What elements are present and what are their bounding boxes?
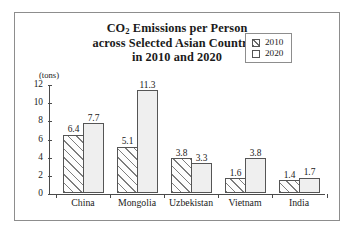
bar-india-2010: 1.4 bbox=[279, 180, 300, 193]
bar-uzbekistan-2010: 3.8 bbox=[171, 158, 192, 193]
chart-legend: 2010 2020 bbox=[245, 33, 292, 63]
x-axis-label-mongolia: Mongolia bbox=[118, 197, 156, 208]
bar-china-2020: 7.7 bbox=[83, 123, 104, 193]
y-tick-label: 2 bbox=[38, 171, 43, 180]
x-axis-label-vietnam: Vietnam bbox=[228, 197, 261, 208]
bar-value-label: 3.3 bbox=[196, 154, 208, 163]
x-axis-label-india: India bbox=[289, 197, 309, 208]
bar-vietnam-2020: 3.8 bbox=[245, 158, 266, 193]
plot-area: (tons) 024681012 6.47.75.111.33.83.31.63… bbox=[49, 85, 323, 194]
legend-label-2020: 2020 bbox=[265, 49, 283, 58]
bar-value-label: 5.1 bbox=[122, 137, 134, 146]
bar-group: 1.41.7 bbox=[279, 84, 320, 193]
y-tick-label: 6 bbox=[38, 135, 43, 144]
bar-china-2010: 6.4 bbox=[63, 135, 84, 193]
bar-value-label: 7.7 bbox=[88, 114, 100, 123]
bar-vietnam-2010: 1.6 bbox=[225, 178, 246, 193]
bar-group: 6.47.7 bbox=[63, 84, 104, 193]
chart-title-subscript: 2 bbox=[125, 26, 129, 36]
bar-value-label: 3.8 bbox=[250, 149, 262, 158]
bar-value-label: 1.6 bbox=[230, 169, 242, 178]
legend-item-2020: 2020 bbox=[252, 48, 283, 59]
bar-india-2020: 1.7 bbox=[299, 178, 320, 193]
x-tick-mark bbox=[164, 194, 165, 198]
x-axis-line bbox=[49, 194, 325, 195]
bar-uzbekistan-2020: 3.3 bbox=[191, 163, 212, 193]
x-tick-mark bbox=[218, 194, 219, 198]
legend-swatch-2020-icon bbox=[252, 50, 260, 58]
legend-swatch-2010-icon bbox=[252, 39, 260, 47]
y-tick-mark bbox=[48, 176, 52, 177]
bar-value-label: 6.4 bbox=[68, 125, 80, 134]
chart-figure: CO2 Emissions per Person across Selected… bbox=[14, 12, 340, 221]
y-tick-mark bbox=[48, 103, 52, 104]
y-tick-mark bbox=[48, 140, 52, 141]
x-axis-label-china: China bbox=[71, 197, 94, 208]
y-tick-mark bbox=[48, 121, 52, 122]
bar-group: 3.83.3 bbox=[171, 84, 212, 193]
y-tick-mark bbox=[48, 158, 52, 159]
bar-value-label: 11.3 bbox=[139, 81, 155, 90]
y-tick-mark bbox=[48, 194, 52, 195]
x-tick-mark bbox=[272, 194, 273, 198]
x-tick-mark bbox=[110, 194, 111, 198]
x-axis-label-uzbekistan: Uzbekistan bbox=[169, 197, 213, 208]
bar-group: 1.63.8 bbox=[225, 84, 266, 193]
bar-value-label: 3.8 bbox=[176, 149, 188, 158]
y-tick-mark bbox=[48, 85, 52, 86]
y-tick-label: 8 bbox=[38, 117, 43, 126]
bar-mongolia-2020: 11.3 bbox=[137, 90, 158, 193]
legend-item-2010: 2010 bbox=[252, 37, 283, 48]
chart-title-co: CO bbox=[107, 21, 126, 35]
chart-title-rest: Emissions per Person bbox=[130, 21, 248, 35]
legend-label-2010: 2010 bbox=[265, 38, 283, 47]
y-tick-label: 12 bbox=[34, 80, 43, 89]
bar-value-label: 1.7 bbox=[304, 168, 316, 177]
y-tick-label: 4 bbox=[38, 153, 43, 162]
y-tick-label: 10 bbox=[34, 98, 43, 107]
x-tick-mark bbox=[56, 194, 57, 198]
bar-value-label: 1.4 bbox=[284, 171, 296, 180]
x-tick-mark bbox=[327, 194, 328, 198]
y-tick-label: 0 bbox=[38, 189, 43, 198]
bar-group: 5.111.3 bbox=[117, 84, 158, 193]
bar-mongolia-2010: 5.1 bbox=[117, 147, 138, 193]
